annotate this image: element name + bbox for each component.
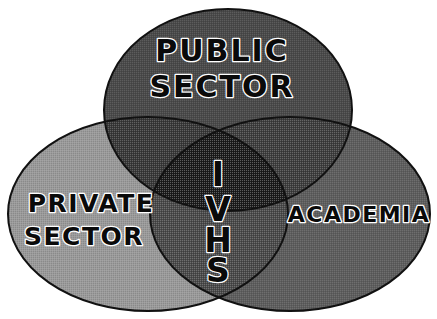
venn-diagram-canvas: PUBLIC SECTOR PRIVATE SECTOR ACADEMIA I …: [0, 0, 437, 319]
label-public-sector-line1: PUBLIC: [155, 33, 289, 68]
label-ivhs-letter-i: I: [212, 155, 224, 194]
venn-diagram: PUBLIC SECTOR PRIVATE SECTOR ACADEMIA I …: [0, 0, 437, 319]
label-private-sector-line1: PRIVATE: [28, 189, 155, 218]
label-ivhs-letter-s: S: [206, 251, 230, 290]
label-academia: ACADEMIA: [288, 202, 431, 227]
label-private-sector-line2: SECTOR: [24, 222, 144, 251]
label-public-sector-line2: SECTOR: [149, 69, 294, 104]
